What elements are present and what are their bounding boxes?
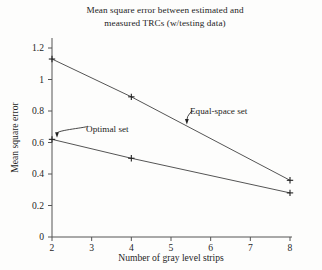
data-point-marker	[287, 190, 293, 196]
chart-canvas	[0, 0, 322, 270]
data-point-marker	[287, 177, 293, 183]
y-tick-label: 1	[20, 75, 44, 85]
data-point-marker	[49, 136, 55, 142]
y-tick-label: 0.2	[20, 201, 44, 211]
tick-marks	[48, 48, 290, 241]
data-point-marker	[49, 56, 55, 62]
x-axis-label: Number of gray level strips	[52, 252, 290, 263]
series-line-1	[52, 139, 290, 193]
y-tick-label: 0	[20, 232, 44, 242]
y-tick-label: 0.6	[20, 138, 44, 148]
leader-optimal-set-arrowhead	[55, 132, 59, 138]
data-point-marker	[128, 94, 134, 100]
chart-figure: Mean square error between estimated and …	[0, 0, 322, 270]
leader-optimal-set	[57, 126, 88, 133]
axis-lines	[52, 38, 292, 237]
annotation-equal-space-set: Equal-space set	[190, 106, 247, 116]
y-tick-label: 0.4	[20, 169, 44, 179]
y-axis-label: Mean square error	[9, 78, 20, 198]
data-point-marker	[128, 155, 134, 161]
y-tick-label: 1.2	[20, 43, 44, 53]
leader-equal-space-set-arrowhead	[185, 119, 189, 125]
y-tick-label: 0.8	[20, 106, 44, 116]
annotation-optimal-set: Optimal set	[86, 124, 129, 134]
series-line-0	[52, 59, 290, 180]
